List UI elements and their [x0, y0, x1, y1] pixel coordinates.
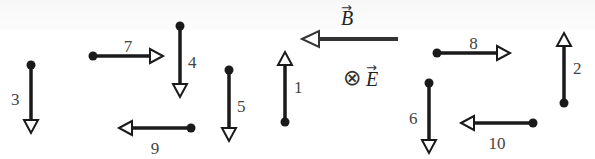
- arrowhead-icon: [150, 49, 163, 63]
- velocity-arrow-9: 9: [119, 121, 196, 158]
- start-dot-icon: [529, 119, 538, 128]
- arrow-label: 2: [573, 59, 582, 78]
- arrow-label: 6: [409, 109, 418, 128]
- velocity-arrow-8: 8: [433, 34, 511, 60]
- arrowhead-icon: [278, 52, 292, 65]
- arrowhead-icon: [173, 84, 187, 97]
- arrow-label: 9: [151, 139, 160, 158]
- e-field-into-page: ⊗ E →: [343, 60, 378, 90]
- arrow-label: 7: [124, 37, 133, 56]
- start-dot-icon: [187, 124, 196, 133]
- velocity-arrow-6: 6: [409, 79, 436, 154]
- start-dot-icon: [27, 61, 36, 70]
- velocity-arrow-2: 2: [557, 33, 582, 108]
- arrowhead-icon: [222, 128, 236, 141]
- velocity-arrow-1: 1: [278, 52, 303, 127]
- b-field-label: B →: [341, 0, 353, 29]
- start-dot-icon: [425, 79, 434, 88]
- velocity-arrow-10: 10: [461, 116, 538, 153]
- diagram-canvas: B → ⊗ E → 12345678910: [0, 0, 595, 159]
- arrowhead-icon: [24, 120, 38, 133]
- velocity-arrows: 12345678910: [11, 22, 582, 159]
- b-field-arrow: [302, 31, 398, 47]
- arrow-label: 3: [11, 90, 20, 109]
- arrow-label: 4: [188, 53, 197, 72]
- arrowhead-icon: [557, 33, 571, 46]
- arrow-label: 8: [469, 34, 478, 53]
- svg-text:→: →: [341, 0, 352, 15]
- arrowhead-icon: [461, 116, 474, 130]
- velocity-arrow-5: 5: [222, 66, 246, 142]
- arrow-label: 1: [294, 78, 303, 97]
- start-dot-icon: [89, 52, 98, 61]
- velocity-arrow-7: 7: [89, 37, 164, 63]
- start-dot-icon: [176, 22, 185, 31]
- start-dot-icon: [433, 49, 442, 58]
- start-dot-icon: [560, 99, 569, 108]
- arrowhead-icon: [119, 121, 132, 135]
- start-dot-icon: [225, 66, 234, 75]
- start-dot-icon: [281, 118, 290, 127]
- velocity-arrow-4: 4: [173, 22, 197, 98]
- arrow-label: 10: [489, 134, 506, 153]
- svg-text:→: →: [366, 60, 377, 75]
- cross-circle-icon: ⊗: [343, 65, 361, 90]
- arrowhead-icon: [422, 140, 436, 153]
- arrowhead-icon: [497, 46, 510, 60]
- arrow-label: 5: [237, 97, 246, 116]
- velocity-arrow-3: 3: [11, 61, 38, 134]
